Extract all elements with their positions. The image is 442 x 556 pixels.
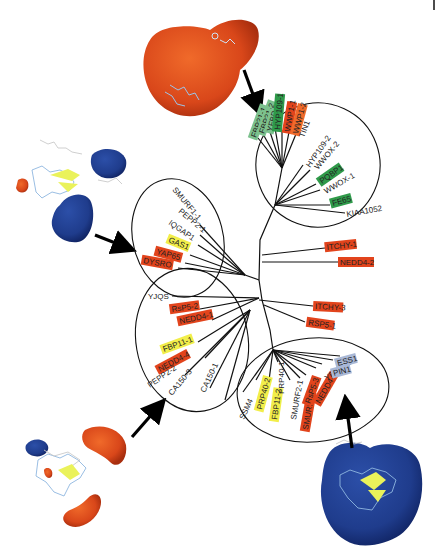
label-rsp5-2: RsP5-2 xyxy=(171,301,199,314)
arrow-top xyxy=(244,70,258,108)
unclustered-labels: ITCHY-1 NEDD4-2 ITCHY-3 RSP5-1 xyxy=(306,239,375,331)
label-yjqs: YJQS xyxy=(148,292,169,301)
label-itchy-3: ITCHY-3 xyxy=(315,302,346,313)
label-fe65: FE65 xyxy=(331,194,352,208)
label-rsp5-1: RSP5-1 xyxy=(308,318,338,331)
label-fbp11-1: FBP11-1 xyxy=(162,335,195,354)
phylogenetic-tree-figure: FBP21-1 FBP21-2 YFBD HYP109-1 WWP1-1 WWP… xyxy=(0,0,442,556)
structure-top xyxy=(143,20,258,116)
label-ca150-1: CA150-1 xyxy=(199,361,221,394)
label-prp40-2: PRP40-2 xyxy=(255,376,272,410)
structure-left xyxy=(16,140,126,242)
arrow-left xyxy=(95,235,128,248)
label-smurf2-1: SMURF2-1 xyxy=(289,379,305,421)
label-kiaa1052: KIAA1052 xyxy=(346,204,384,219)
label-nedd4-2: NEDD4-2 xyxy=(340,258,375,267)
arrow-bottom-left xyxy=(132,405,160,437)
cluster-top-right-labels: FBP21-1 FBP21-2 YFBD HYP109-1 WWP1-1 WWP… xyxy=(248,92,384,219)
cluster-bottom-right-labels: SSM4 PRP40-2 FBP11-2 PRP40-1 SMURF2-1 SM… xyxy=(238,353,359,432)
structure-bottom-left xyxy=(25,426,126,526)
label-prp40-1: PRP40-1 xyxy=(277,361,286,394)
structure-bottom-right xyxy=(321,440,422,545)
label-itchy-1: ITCHY-1 xyxy=(326,240,358,252)
